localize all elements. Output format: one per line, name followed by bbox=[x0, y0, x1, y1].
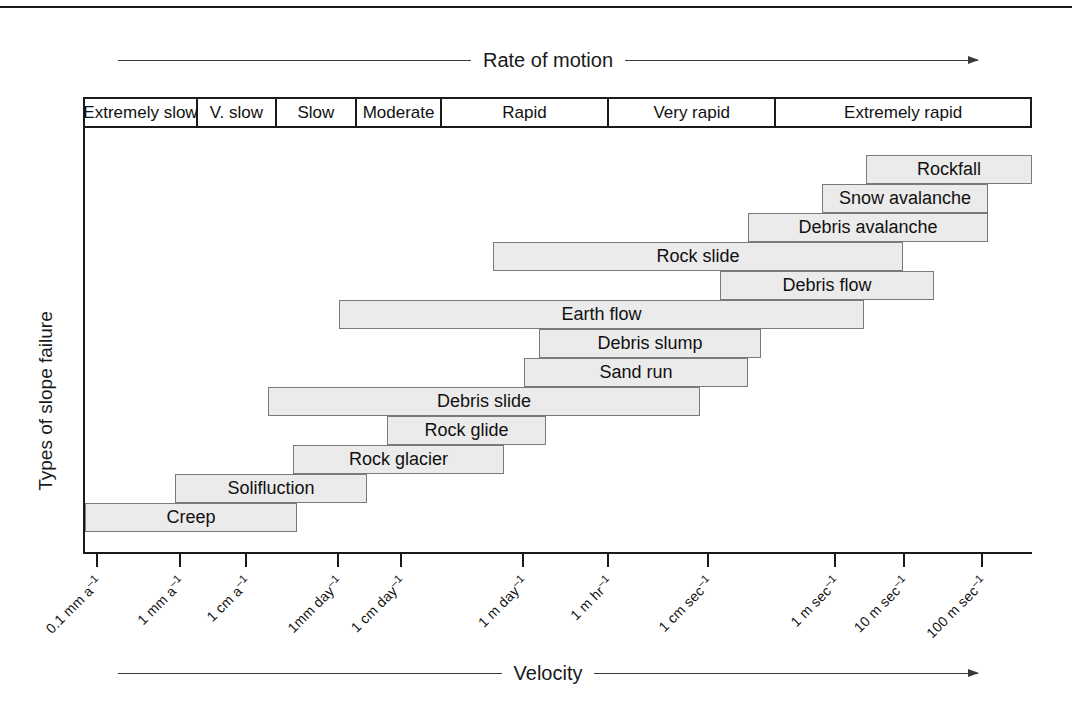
velocity-arrow-head-icon bbox=[968, 669, 979, 677]
x-axis-tick bbox=[607, 554, 609, 567]
x-axis-tick bbox=[707, 554, 709, 567]
x-axis-tick bbox=[245, 554, 247, 567]
failure-type-bar: Snow avalanche bbox=[822, 184, 988, 213]
failure-type-bar: Rock slide bbox=[493, 242, 903, 271]
figure-root: Rate of motion Types of slope failure Ex… bbox=[0, 0, 1072, 723]
failure-type-bar: Sand run bbox=[524, 358, 748, 387]
failure-type-bar: Earth flow bbox=[339, 300, 864, 329]
failure-type-bar: Solifluction bbox=[175, 474, 367, 503]
failure-type-bar: Debris avalanche bbox=[748, 213, 988, 242]
x-axis-tick bbox=[337, 554, 339, 567]
x-axis-tick bbox=[834, 554, 836, 567]
velocity-arrow-line-right bbox=[594, 673, 978, 674]
failure-type-bar: Rockfall bbox=[866, 155, 1032, 184]
x-axis-tick bbox=[179, 554, 181, 567]
failure-type-bar: Rock glacier bbox=[293, 445, 504, 474]
velocity-arrow-line-left bbox=[118, 673, 502, 674]
x-axis-tick bbox=[522, 554, 524, 567]
x-axis-tick bbox=[400, 554, 402, 567]
x-axis-tick bbox=[903, 554, 905, 567]
failure-type-bar: Debris slump bbox=[539, 329, 761, 358]
x-axis-tick bbox=[981, 554, 983, 567]
failure-type-bar: Creep bbox=[85, 503, 297, 532]
failure-type-bar: Debris flow bbox=[720, 271, 934, 300]
velocity-caption: Velocity bbox=[502, 662, 595, 685]
velocity-arrow: Velocity bbox=[118, 658, 978, 688]
x-axis-tick bbox=[96, 554, 98, 567]
failure-type-bar: Rock glide bbox=[387, 416, 546, 445]
bars-layer: RockfallSnow avalancheDebris avalancheRo… bbox=[0, 0, 1072, 723]
failure-type-bar: Debris slide bbox=[268, 387, 700, 416]
